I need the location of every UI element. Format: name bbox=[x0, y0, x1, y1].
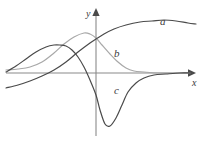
curve-label-a: a bbox=[160, 16, 166, 27]
x-axis-label: x bbox=[192, 78, 196, 88]
curve-label-b: b bbox=[114, 48, 120, 59]
function-graph-figure: a b c x y bbox=[0, 0, 205, 143]
y-axis-arrow-icon bbox=[92, 8, 99, 16]
curve-label-c: c bbox=[114, 85, 119, 96]
curve-a bbox=[6, 20, 196, 88]
plot-canvas bbox=[0, 0, 205, 143]
y-axis-label: y bbox=[86, 9, 90, 19]
curve-c bbox=[6, 45, 190, 127]
axes-group bbox=[6, 8, 196, 136]
